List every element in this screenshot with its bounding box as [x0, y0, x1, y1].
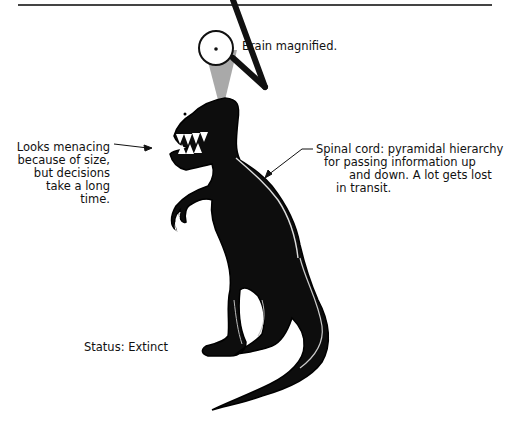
- spinal-line: in transit.: [336, 182, 508, 195]
- dinosaur-diagram: [0, 0, 508, 433]
- menacing-label: Looks menacing because of size, but deci…: [0, 141, 110, 206]
- menacing-arrow: [114, 144, 152, 151]
- brain-label: Brain magnified.: [242, 40, 337, 53]
- tyrannosaurus-illustration: [170, 98, 328, 410]
- menacing-line: time.: [0, 193, 110, 206]
- spinal-cord-label: Spinal cord: pyramidal hierarchy for pas…: [316, 143, 503, 195]
- status-label: Status: Extinct: [84, 341, 168, 354]
- spinal-arrow: [265, 149, 313, 178]
